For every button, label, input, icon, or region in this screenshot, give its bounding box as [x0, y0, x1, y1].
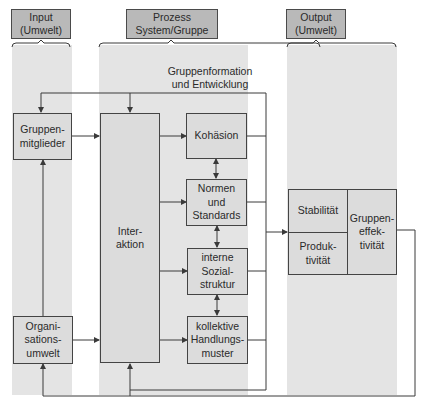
node-group-members: Gruppen- mitglieder	[13, 113, 72, 160]
node-group-effectiveness: Gruppen- effek- tivität	[347, 189, 397, 275]
input-header: Input (Umwelt)	[11, 9, 71, 39]
node-interaction: Inter- aktion	[100, 113, 160, 363]
node-stability: Stabilität	[288, 189, 348, 233]
feedback-label: Gruppenformation und Entwicklung	[150, 65, 270, 91]
node-cohesion: Kohäsion	[186, 113, 247, 159]
output-header: Output (Umwelt)	[286, 9, 346, 39]
node-social-structure: interne Sozial- struktur	[187, 248, 248, 295]
node-action-patterns: kollektive Handlungs- muster	[187, 316, 248, 364]
node-org-environment: Organi- sations- umwelt	[13, 316, 73, 364]
node-productivity: Produk- tivität	[288, 232, 348, 275]
node-norms: Normen und Standards	[186, 179, 247, 226]
process-header: Prozess System/Gruppe	[126, 9, 218, 39]
